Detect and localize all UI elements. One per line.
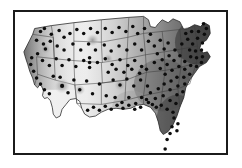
points-label: Observation sites <box>0 0 1 1</box>
figure-caption <box>0 0 1 1</box>
map-region-label: Contiguous United States <box>0 0 1 1</box>
gulf-shading <box>112 91 151 124</box>
figure-root: Contiguous United States Observation sit… <box>0 0 242 168</box>
us-map <box>15 12 226 153</box>
pacific-coast-shading <box>15 12 89 90</box>
density-note: Sparse in the interior West, dense acros… <box>0 0 1 1</box>
figure-frame <box>13 10 228 155</box>
points-count: 186 <box>0 0 1 1</box>
figure-title <box>0 0 1 1</box>
shading-description: Grayscale gradient, lightest in the inte… <box>0 0 1 1</box>
